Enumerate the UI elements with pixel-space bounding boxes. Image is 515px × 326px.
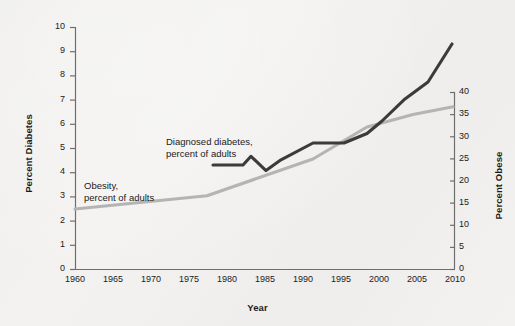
series-annotation-obesity: Obesity, percent of adults — [84, 180, 154, 204]
ytick-left-7: 7 — [45, 94, 65, 104]
ytick-left-10: 10 — [45, 21, 65, 31]
ytick-left-2: 2 — [45, 215, 65, 225]
ytick-left-4: 4 — [45, 166, 65, 176]
ytick-right-35: 35 — [459, 108, 481, 118]
xtick-2005: 2005 — [397, 274, 437, 284]
ytick-left-5: 5 — [45, 142, 65, 152]
ytick-right-10: 10 — [459, 219, 481, 229]
left-axis-ticks — [70, 28, 75, 270]
xtick-1970: 1970 — [131, 274, 171, 284]
ytick-left-0: 0 — [45, 263, 65, 273]
xtick-2010: 2010 — [435, 274, 475, 284]
xtick-1980: 1980 — [207, 274, 247, 284]
ytick-left-9: 9 — [45, 45, 65, 55]
xtick-1990: 1990 — [283, 274, 323, 284]
xtick-2000: 2000 — [359, 274, 399, 284]
xtick-1960: 1960 — [55, 274, 95, 284]
xtick-1965: 1965 — [93, 274, 133, 284]
xtick-1985: 1985 — [245, 274, 285, 284]
ytick-right-30: 30 — [459, 131, 481, 141]
ytick-right-40: 40 — [459, 86, 481, 96]
ytick-right-5: 5 — [459, 241, 481, 251]
ytick-left-1: 1 — [45, 239, 65, 249]
chart-figure: 0 1 2 3 4 5 6 7 8 9 10 0 5 10 15 20 25 3… — [0, 0, 515, 326]
ytick-right-20: 20 — [459, 175, 481, 185]
xtick-1975: 1975 — [169, 274, 209, 284]
ytick-right-25: 25 — [459, 153, 481, 163]
y-axis-title-right: Percent Obese — [493, 131, 504, 241]
ytick-left-8: 8 — [45, 69, 65, 79]
xtick-1995: 1995 — [321, 274, 361, 284]
ytick-left-3: 3 — [45, 190, 65, 200]
ytick-right-15: 15 — [459, 197, 481, 207]
x-axis-title: Year — [0, 302, 515, 313]
series-annotation-diabetes: Diagnosed diabetes, percent of adults — [166, 136, 253, 160]
ytick-left-6: 6 — [45, 118, 65, 128]
y-axis-title-left: Percent Diabetes — [23, 99, 34, 209]
ytick-right-0: 0 — [459, 263, 481, 273]
